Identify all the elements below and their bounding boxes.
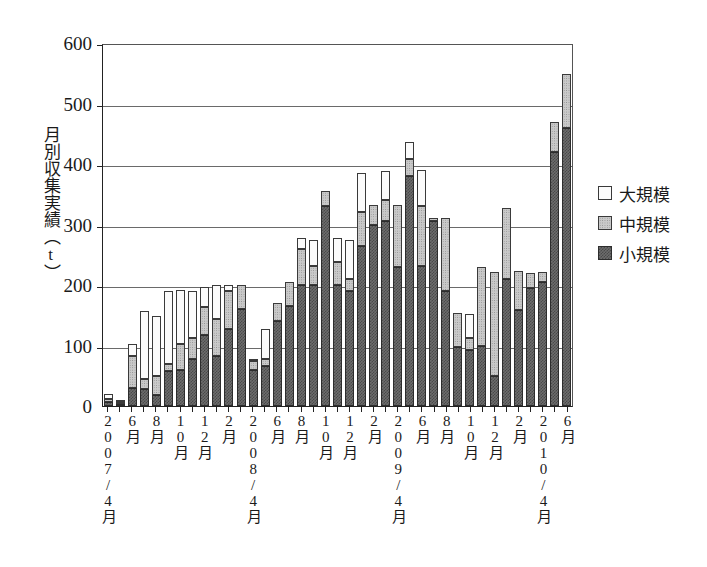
x-tick-label-text: 2008/4月: [245, 413, 260, 524]
bar-segment-large: [176, 290, 185, 344]
y-axis-title: 月別収集実績（t）: [26, 126, 60, 281]
bar-segment-small: [333, 285, 342, 406]
bar-stack[interactable]: [237, 45, 246, 406]
bar-stack[interactable]: [333, 45, 342, 406]
bar-stack[interactable]: [357, 45, 366, 406]
bar-segment-medium: [224, 291, 233, 329]
x-tick-label: 8月: [442, 412, 451, 562]
bar-segment-medium: [237, 285, 246, 309]
legend-label-medium: 中規模: [619, 211, 670, 236]
x-tick-label-text: 2月: [366, 413, 381, 444]
bar-stack[interactable]: [321, 45, 330, 406]
bar-segment-small: [441, 291, 450, 406]
bar-stack[interactable]: [164, 45, 173, 406]
bar-segment-medium: [453, 313, 462, 346]
x-tick-label: 2010/4月: [538, 412, 547, 562]
bar-stack[interactable]: [550, 45, 559, 406]
bar-stack[interactable]: [405, 45, 414, 406]
bar-stack[interactable]: [249, 45, 258, 406]
y-tick-label: 200: [44, 276, 92, 295]
bar-segment-small: [429, 221, 438, 406]
x-tick-label: 12月: [490, 412, 499, 562]
x-tick-label: 12月: [200, 412, 209, 562]
bar-stack[interactable]: [273, 45, 282, 406]
y-tick-label: 0: [44, 397, 92, 416]
bar-stack[interactable]: [297, 45, 306, 406]
bar-stack[interactable]: [514, 45, 523, 406]
bar-segment-medium: [140, 379, 149, 389]
bar-segment-medium: [369, 205, 378, 225]
x-tick-label: 2月: [369, 412, 378, 562]
x-tick-label: [405, 412, 414, 562]
bar-stack[interactable]: [212, 45, 221, 406]
bar-segment-small: [176, 370, 185, 406]
bar-segment-small: [357, 246, 366, 406]
bar-stack[interactable]: [152, 45, 161, 406]
bar-segment-small: [188, 359, 197, 406]
bar-stack[interactable]: [200, 45, 209, 406]
bar-stack[interactable]: [429, 45, 438, 406]
bar-stack[interactable]: [502, 45, 511, 406]
bar-segment-large: [164, 291, 173, 364]
bar-segment-small: [562, 128, 571, 406]
legend-item-large: 大規模: [598, 178, 703, 208]
bar-stack[interactable]: [393, 45, 402, 406]
x-tick-label-text: 6月: [269, 413, 284, 444]
x-tick-label-text: 2月: [511, 413, 526, 444]
bar-segment-large: [140, 311, 149, 379]
x-tick-label: [139, 412, 148, 562]
bar-segment-large: [405, 142, 414, 159]
bar-segment-small: [393, 267, 402, 406]
bar-segment-large: [261, 329, 270, 359]
bar-segment-small: [550, 152, 559, 406]
bar-stack[interactable]: [285, 45, 294, 406]
bar-segment-medium: [502, 208, 511, 279]
x-tick-label: [381, 412, 390, 562]
bar-stack[interactable]: [417, 45, 426, 406]
x-tick-label-text: 12月: [342, 413, 357, 460]
bar-stack[interactable]: [309, 45, 318, 406]
x-tick-label: [163, 412, 172, 562]
bar-segment-large: [465, 314, 474, 338]
bar-segment-small: [514, 310, 523, 406]
bar-segment-medium: [321, 191, 330, 206]
bar-stack[interactable]: [477, 45, 486, 406]
bar-stack[interactable]: [224, 45, 233, 406]
x-tick-label-text: 12月: [197, 413, 212, 460]
x-tick-label-text: 2月: [221, 413, 236, 444]
bar-segment-small: [453, 347, 462, 406]
x-tick-label-text: 8月: [439, 413, 454, 444]
bar-segment-large: [297, 238, 306, 249]
bar-segment-large: [128, 344, 137, 356]
bar-stack[interactable]: [381, 45, 390, 406]
x-tick-label: 8月: [297, 412, 306, 562]
bar-stack[interactable]: [188, 45, 197, 406]
bar-stack[interactable]: [128, 45, 137, 406]
legend: 大規模 中規模 小規模: [598, 178, 703, 268]
bar-stack[interactable]: [453, 45, 462, 406]
bar-stack[interactable]: [176, 45, 185, 406]
bar-stack[interactable]: [116, 45, 125, 406]
bar-segment-medium: [333, 262, 342, 285]
bar-stack[interactable]: [104, 45, 113, 406]
bar-stack[interactable]: [562, 45, 571, 406]
bar-stack[interactable]: [526, 45, 535, 406]
x-tick-label: 10月: [176, 412, 185, 562]
legend-label-small: 小規模: [619, 241, 670, 266]
bar-stack[interactable]: [369, 45, 378, 406]
bar-segment-medium: [357, 212, 366, 245]
bar-segment-small: [345, 291, 354, 406]
bar-segment-small: [526, 288, 535, 406]
bar-stack[interactable]: [441, 45, 450, 406]
bar-stack[interactable]: [465, 45, 474, 406]
x-tick-label: 6月: [563, 412, 572, 562]
bar-stack[interactable]: [345, 45, 354, 406]
bar-segment-large: [152, 316, 161, 375]
bar-stack[interactable]: [140, 45, 149, 406]
bar-segment-medium: [212, 319, 221, 357]
x-tick-label: 2009/4月: [393, 412, 402, 562]
bar-stack[interactable]: [490, 45, 499, 406]
bar-segment-medium: [249, 361, 258, 369]
bar-stack[interactable]: [538, 45, 547, 406]
bar-stack[interactable]: [261, 45, 270, 406]
